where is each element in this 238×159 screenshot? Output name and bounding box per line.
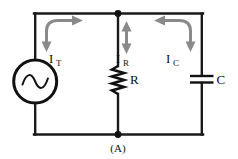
it-label: I: [49, 51, 53, 66]
ic-arrow-path: [163, 21, 191, 45]
it-label-subscript: T: [56, 58, 62, 68]
ic-arrowhead-down: [186, 42, 196, 53]
node-dot-bottom: [115, 131, 122, 138]
ir-arrowhead-down: [122, 44, 132, 55]
ir-label-subscript: R: [123, 58, 129, 68]
capacitor-label: C: [217, 72, 226, 87]
ir-arrowhead-up: [122, 21, 132, 32]
resistor-zigzag-icon: [112, 66, 124, 94]
circuit-schematic-svg: R C I T I R I C: [0, 0, 238, 159]
node-dot-top: [115, 10, 122, 17]
resistor-label: R: [130, 72, 139, 87]
circuit-diagram-figure: R C I T I R I C: [0, 0, 238, 159]
current-arrow-ic: I C: [154, 16, 196, 69]
resistor-component: R: [112, 66, 139, 94]
ic-arrowhead-left: [154, 16, 165, 26]
it-arrow-path: [47, 21, 75, 45]
it-arrowhead-right: [72, 16, 83, 26]
current-arrow-it: I T: [42, 16, 84, 69]
figure-caption: (A): [110, 142, 126, 155]
ac-voltage-source: [14, 60, 57, 103]
ir-label: I: [116, 51, 120, 66]
ic-label: I: [166, 51, 170, 66]
ic-label-subscript: C: [173, 58, 179, 68]
capacitor-component: C: [190, 72, 225, 87]
